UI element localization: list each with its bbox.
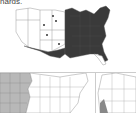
bottom-right-western-map bbox=[96, 73, 136, 113]
bottom-left-us-map bbox=[0, 73, 94, 113]
map-marker bbox=[43, 24, 45, 26]
map-marker bbox=[52, 15, 54, 17]
map-marker bbox=[58, 43, 60, 45]
map-marker bbox=[46, 34, 48, 36]
map-marker bbox=[55, 20, 57, 22]
main-us-map bbox=[10, 4, 120, 66]
